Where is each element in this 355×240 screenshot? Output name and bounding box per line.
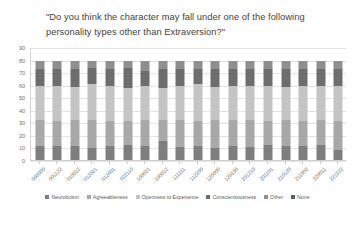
bar-segment[interactable]: [334, 86, 343, 121]
bar-segment[interactable]: [228, 86, 237, 120]
bar-slot[interactable]: [242, 48, 260, 161]
bar-segment[interactable]: [316, 61, 325, 70]
bar-slot[interactable]: [189, 48, 207, 161]
bar-segment[interactable]: [299, 69, 308, 85]
bar-segment[interactable]: [70, 61, 79, 70]
bar-slot[interactable]: [66, 48, 84, 161]
bar-segment[interactable]: [193, 146, 202, 161]
bar-segment[interactable]: [141, 120, 150, 146]
bar-segment[interactable]: [316, 86, 325, 120]
bar-segment[interactable]: [228, 146, 237, 161]
stacked-bar[interactable]: [123, 61, 132, 161]
bar-segment[interactable]: [105, 61, 114, 70]
bar-segment[interactable]: [299, 61, 308, 70]
bar-slot[interactable]: [259, 48, 277, 161]
bar-slot[interactable]: [49, 48, 67, 161]
legend-item[interactable]: Neuroticism: [45, 194, 78, 200]
bar-segment[interactable]: [193, 84, 202, 120]
stacked-bar[interactable]: [211, 61, 220, 161]
bar-segment[interactable]: [141, 71, 150, 86]
bar-slot[interactable]: [224, 48, 242, 161]
bar-segment[interactable]: [158, 88, 167, 119]
bar-segment[interactable]: [299, 146, 308, 161]
bar-segment[interactable]: [158, 61, 167, 70]
bar-segment[interactable]: [316, 69, 325, 85]
bar-segment[interactable]: [141, 86, 150, 120]
bar-segment[interactable]: [123, 61, 132, 69]
bar-segment[interactable]: [53, 86, 62, 121]
bar-segment[interactable]: [299, 86, 308, 121]
bar-segment[interactable]: [105, 86, 114, 121]
bar-slot[interactable]: [154, 48, 172, 161]
legend-item[interactable]: Openness to Experience: [136, 194, 199, 200]
stacked-bar[interactable]: [53, 61, 62, 161]
stacked-bar[interactable]: [281, 61, 290, 161]
bar-segment[interactable]: [70, 120, 79, 146]
bar-segment[interactable]: [263, 61, 272, 70]
bar-segment[interactable]: [88, 61, 97, 69]
bar-segment[interactable]: [211, 87, 220, 120]
bar-segment[interactable]: [70, 87, 79, 120]
bar-segment[interactable]: [211, 61, 220, 70]
bar-segment[interactable]: [88, 84, 97, 119]
stacked-bar[interactable]: [105, 61, 114, 161]
bar-slot[interactable]: [101, 48, 119, 161]
legend-item[interactable]: None: [291, 194, 309, 200]
bar-segment[interactable]: [53, 146, 62, 161]
bar-segment[interactable]: [246, 147, 255, 161]
stacked-bar[interactable]: [70, 61, 79, 161]
stacked-bar[interactable]: [88, 61, 97, 161]
bar-segment[interactable]: [281, 69, 290, 87]
bar-segment[interactable]: [281, 87, 290, 120]
bar-segment[interactable]: [53, 121, 62, 146]
bar-segment[interactable]: [263, 121, 272, 145]
bar-segment[interactable]: [70, 69, 79, 87]
bar-segment[interactable]: [158, 120, 167, 141]
legend-item[interactable]: Agreeableness: [87, 194, 128, 200]
bar-segment[interactable]: [176, 61, 185, 70]
bar-segment[interactable]: [281, 146, 290, 161]
bar-segment[interactable]: [176, 86, 185, 120]
bar-slot[interactable]: [207, 48, 225, 161]
bar-segment[interactable]: [35, 61, 44, 70]
bar-segment[interactable]: [246, 69, 255, 85]
bar-segment[interactable]: [35, 146, 44, 161]
bar-segment[interactable]: [123, 121, 132, 145]
stacked-bar[interactable]: [316, 61, 325, 161]
legend-item[interactable]: Other: [264, 194, 283, 200]
bar-segment[interactable]: [141, 146, 150, 161]
bar-segment[interactable]: [211, 120, 220, 149]
bar-segment[interactable]: [70, 146, 79, 161]
bar-slot[interactable]: [136, 48, 154, 161]
bar-segment[interactable]: [176, 147, 185, 161]
stacked-bar[interactable]: [263, 61, 272, 161]
bar-slot[interactable]: [119, 48, 137, 161]
bar-segment[interactable]: [246, 86, 255, 120]
bar-segment[interactable]: [35, 69, 44, 85]
bar-segment[interactable]: [228, 120, 237, 146]
bar-segment[interactable]: [105, 146, 114, 161]
bar-segment[interactable]: [105, 69, 114, 85]
bar-segment[interactable]: [123, 68, 132, 88]
bar-segment[interactable]: [193, 61, 202, 70]
bar-segment[interactable]: [334, 61, 343, 70]
bar-segment[interactable]: [281, 61, 290, 70]
stacked-bar[interactable]: [246, 61, 255, 161]
bar-segment[interactable]: [281, 120, 290, 146]
bar-slot[interactable]: [312, 48, 330, 161]
bar-segment[interactable]: [123, 145, 132, 161]
bar-segment[interactable]: [53, 61, 62, 70]
bar-segment[interactable]: [88, 68, 97, 84]
stacked-bar[interactable]: [334, 61, 343, 161]
bar-segment[interactable]: [88, 120, 97, 149]
stacked-bar[interactable]: [158, 61, 167, 161]
bar-segment[interactable]: [141, 61, 150, 71]
bar-segment[interactable]: [316, 120, 325, 145]
bar-segment[interactable]: [263, 145, 272, 161]
bar-slot[interactable]: [171, 48, 189, 161]
bar-segment[interactable]: [246, 61, 255, 70]
bar-segment[interactable]: [176, 120, 185, 148]
bar-segment[interactable]: [105, 121, 114, 146]
bar-segment[interactable]: [316, 145, 325, 161]
stacked-bar[interactable]: [176, 61, 185, 161]
